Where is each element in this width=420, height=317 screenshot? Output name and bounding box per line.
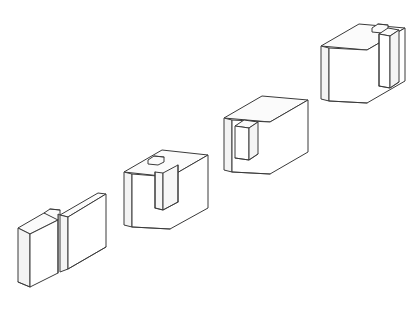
stage2-slot-recess: [155, 172, 163, 210]
stage4-rail-side-face: [390, 30, 399, 88]
stage4-rail-front-face: [379, 34, 390, 88]
stage1-left-leaf-side-face: [18, 228, 30, 287]
technical-drawing-canvas: Isometric panel assembly sequence Flat r…: [0, 0, 420, 317]
stage-1-split-panel-with-top-notch: [18, 193, 106, 287]
stage2-side-face: [124, 172, 132, 227]
stage-3-panel-with-edge-tab: [224, 96, 308, 174]
stage-4-panel-with-vertical-rail: [321, 24, 405, 103]
stage-2-slotted-panel: [124, 150, 208, 229]
stage3-tab-front-face: [235, 126, 249, 160]
stage3-side-face: [224, 118, 232, 172]
stage3-tab-side-face: [249, 122, 258, 160]
stage1-right-leaf-side-face: [60, 215, 68, 272]
isometric-assembly-drawing: [0, 0, 420, 317]
stage4-side-face: [321, 46, 329, 101]
